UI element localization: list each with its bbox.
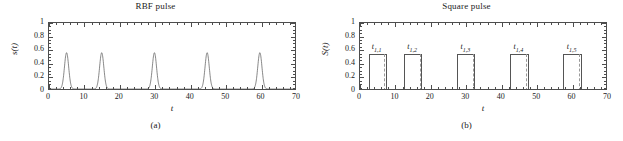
x-tick-minor	[276, 87, 277, 89]
x-tick-label: 70	[595, 92, 619, 101]
x-tick-major-top	[502, 23, 503, 27]
x-tick-minor	[558, 87, 559, 89]
y-tick-minor	[49, 33, 51, 34]
x-tick-major-top	[573, 23, 574, 27]
rbf-pulse-curve	[49, 23, 295, 89]
x-tick-minor-top	[367, 23, 368, 25]
x-tick-minor-top	[205, 23, 206, 25]
square-pulse-dashed-marker	[526, 54, 527, 90]
x-tick-major-top	[537, 23, 538, 27]
x-tick-minor	[77, 87, 78, 89]
x-tick-minor-top	[134, 23, 135, 25]
x-tick-minor-top	[240, 23, 241, 25]
x-tick-minor-top	[403, 23, 404, 25]
x-tick-minor-top	[452, 23, 453, 25]
x-tick-major	[226, 85, 227, 89]
y-tick-minor-right	[604, 88, 606, 89]
x-tick-minor	[127, 87, 128, 89]
x-tick-label: 60	[249, 92, 273, 101]
y-tick-minor-right	[293, 30, 295, 31]
x-tick-minor-top	[381, 23, 382, 25]
y-tick-label: 0.2	[14, 71, 44, 80]
y-tick-minor	[360, 30, 362, 31]
square-pulse-dashed-marker	[473, 54, 474, 90]
x-tick-minor	[587, 87, 588, 89]
x-tick-minor-top	[480, 23, 481, 25]
y-tick-major	[49, 77, 53, 78]
square-pulse-dashed-marker	[579, 54, 580, 90]
y-tick-major-right	[291, 50, 295, 51]
y-tick-major-right	[602, 23, 606, 24]
x-tick-label: 70	[284, 92, 308, 101]
y-tick-major-right	[291, 37, 295, 38]
square-pulse-dashed-marker	[384, 54, 385, 90]
x-tick-minor-top	[374, 23, 375, 25]
x-tick-minor	[452, 87, 453, 89]
x-tick-minor-top	[488, 23, 489, 25]
x-tick-label: 60	[560, 92, 584, 101]
x-tick-minor-top	[247, 23, 248, 25]
x-tick-minor	[198, 87, 199, 89]
y-tick-major	[360, 64, 364, 65]
y-tick-minor-right	[604, 81, 606, 82]
y-tick-minor	[360, 81, 362, 82]
y-tick-minor-right	[293, 81, 295, 82]
y-tick-minor	[360, 60, 362, 61]
x-tick-minor	[113, 87, 114, 89]
y-tick-minor-right	[604, 57, 606, 58]
square-pulse-label: t1,4	[514, 42, 524, 53]
panel-b-subcaption: (b)	[311, 120, 622, 130]
y-tick-minor-right	[604, 54, 606, 55]
panel-b-title: Square pulse	[311, 1, 622, 11]
x-tick-minor	[254, 87, 255, 89]
y-tick-minor	[49, 43, 51, 44]
x-tick-minor	[445, 87, 446, 89]
y-tick-major	[360, 50, 364, 51]
y-tick-minor-right	[293, 54, 295, 55]
x-tick-minor-top	[438, 23, 439, 25]
y-tick-label: 0	[325, 85, 355, 94]
x-tick-minor-top	[106, 23, 107, 25]
x-tick-major	[537, 85, 538, 89]
x-tick-minor	[438, 87, 439, 89]
x-tick-minor-top	[516, 23, 517, 25]
y-tick-minor-right	[293, 67, 295, 68]
y-tick-minor	[360, 57, 362, 58]
panel-a-plot-frame	[48, 22, 296, 90]
x-tick-minor-top	[495, 23, 496, 25]
x-tick-major-top	[466, 23, 467, 27]
y-tick-minor	[49, 40, 51, 41]
panel-a-title: RBF pulse	[0, 1, 311, 11]
panel-a-plot-area	[49, 23, 295, 89]
x-tick-minor	[106, 87, 107, 89]
y-tick-minor-right	[293, 57, 295, 58]
x-tick-minor-top	[269, 23, 270, 25]
x-tick-minor-top	[141, 23, 142, 25]
y-tick-label: 1	[14, 17, 44, 26]
x-tick-minor	[290, 87, 291, 89]
x-tick-minor-top	[56, 23, 57, 25]
x-tick-minor-top	[565, 23, 566, 25]
y-tick-label: 1	[325, 17, 355, 26]
x-tick-major	[395, 85, 396, 89]
x-tick-minor	[601, 87, 602, 89]
y-tick-minor-right	[293, 26, 295, 27]
y-tick-minor-right	[293, 60, 295, 61]
x-tick-minor-top	[410, 23, 411, 25]
y-tick-label: 0.6	[325, 44, 355, 53]
x-tick-major-top	[191, 23, 192, 27]
x-tick-minor	[212, 87, 213, 89]
y-tick-minor	[360, 54, 362, 55]
x-tick-minor	[169, 87, 170, 89]
y-tick-major	[360, 37, 364, 38]
x-tick-major	[262, 85, 263, 89]
x-tick-minor	[233, 87, 234, 89]
x-tick-minor	[240, 87, 241, 89]
x-tick-major	[84, 85, 85, 89]
y-tick-minor-right	[604, 71, 606, 72]
x-tick-minor-top	[148, 23, 149, 25]
x-tick-minor	[92, 87, 93, 89]
x-tick-minor-top	[459, 23, 460, 25]
x-tick-minor-top	[587, 23, 588, 25]
panel-a-subcaption: (a)	[0, 120, 311, 130]
